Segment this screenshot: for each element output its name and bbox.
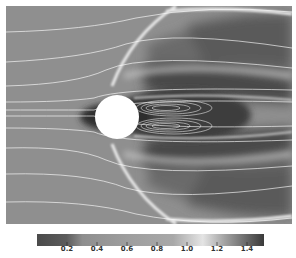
flow-field-plot — [6, 6, 292, 224]
colorbar-tick-label: 1.2 — [211, 245, 223, 253]
colorbar-tick-label: 0.8 — [151, 245, 163, 253]
cylinder-obstacle — [95, 95, 139, 139]
colorbar-tick-label: 0.2 — [61, 245, 73, 253]
colorbar-tick-label: 0.4 — [91, 245, 103, 253]
colorbar-tick-label: 0.6 — [121, 245, 133, 253]
colorbar-tick-label: 1.4 — [241, 245, 253, 253]
colorbar — [37, 231, 264, 243]
colorbar-tick-label: 1.0 — [181, 245, 193, 253]
